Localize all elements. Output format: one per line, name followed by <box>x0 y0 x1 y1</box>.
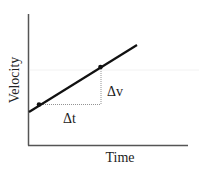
delta-t-label: Δt <box>63 111 76 126</box>
delta-v-label: Δv <box>107 84 123 99</box>
velocity-time-diagram: Δv Δt Time Velocity <box>0 0 199 169</box>
point-marker-2 <box>98 65 103 70</box>
point-marker-1 <box>37 102 42 107</box>
y-axis-label: Velocity <box>7 57 22 104</box>
velocity-line <box>29 45 137 112</box>
x-axis-label: Time <box>105 150 134 165</box>
